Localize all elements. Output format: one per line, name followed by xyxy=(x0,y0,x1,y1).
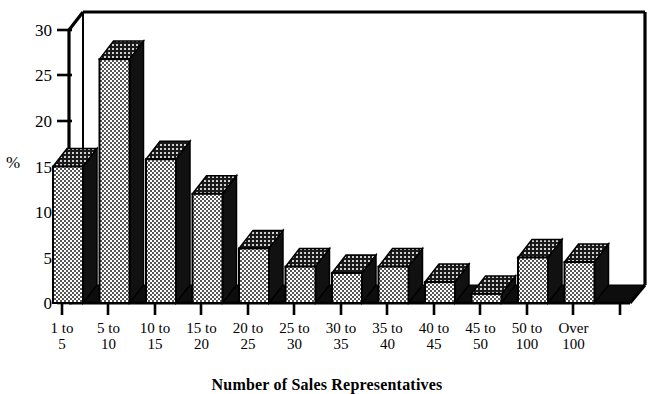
x-tick-label-line1: 15 to xyxy=(186,320,216,336)
x-axis-title: Number of Sales Representatives xyxy=(0,376,654,394)
y-tick-label-15: 15 xyxy=(22,159,52,176)
bar-over-100 xyxy=(565,244,609,303)
bar-50-to-100 xyxy=(518,240,562,304)
y-tick-label-5: 5 xyxy=(22,250,52,267)
x-tick-label-line1: 5 to xyxy=(97,320,120,336)
bar-10-to-15 xyxy=(146,141,190,303)
x-tick-label-line2: 100 xyxy=(547,336,601,352)
x-tick-label-line1: 25 to xyxy=(279,320,309,336)
x-tick-label-line1: 20 to xyxy=(233,320,263,336)
x-tick-label-line1: 40 to xyxy=(419,320,449,336)
x-tick-label-line1: Over xyxy=(559,320,589,336)
x-tick-label-line1: 1 to xyxy=(51,320,74,336)
bar-15-to-20 xyxy=(193,176,237,303)
bar-1-to-5 xyxy=(53,149,97,304)
x-axis-ticks xyxy=(62,303,620,315)
bars-group xyxy=(53,41,609,303)
y-tick-label-25: 25 xyxy=(22,67,52,84)
x-tick-label-line1: 45 to xyxy=(465,320,495,336)
x-tick-label-line1: 30 to xyxy=(326,320,356,336)
y-tick-label-0: 0 xyxy=(22,295,52,312)
y-tick-label-10: 10 xyxy=(22,204,52,221)
y-tick-label-20: 20 xyxy=(22,113,52,130)
x-tick-label-line1: 50 to xyxy=(512,320,542,336)
x-tick-label-line1: 35 to xyxy=(372,320,402,336)
x-tick-label-11: Over100 xyxy=(547,320,601,352)
bar-5-to-10 xyxy=(100,41,144,303)
y-axis-label: % xyxy=(6,154,20,171)
bar-20-to-25 xyxy=(239,230,283,303)
x-tick-label-line1: 10 to xyxy=(140,320,170,336)
y-tick-label-30: 30 xyxy=(22,22,52,39)
